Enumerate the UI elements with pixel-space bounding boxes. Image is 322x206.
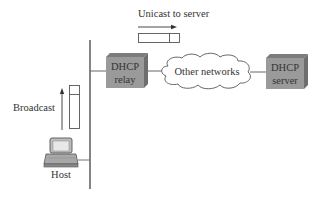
unicast-arrow-icon (138, 25, 177, 29)
broadcast-packet (70, 86, 80, 129)
unicast-label: Unicast to server (138, 8, 210, 19)
dhcp-relay-box: DHCP relay (106, 53, 148, 88)
relay-label-line2: relay (115, 74, 137, 85)
unicast-packet (139, 34, 180, 43)
dhcp-relay-diagram: DHCP relay Other networks DHCP server Un… (0, 0, 322, 206)
broadcast-arrow-icon (60, 88, 64, 130)
server-label-line1: DHCP (271, 62, 299, 73)
server-label-line2: server (272, 75, 298, 86)
cloud-label: Other networks (174, 66, 239, 77)
host-computer-icon (44, 138, 78, 167)
dhcp-server-box: DHCP server (266, 54, 308, 89)
broadcast-label: Broadcast (13, 102, 55, 113)
other-networks-cloud: Other networks (162, 53, 251, 89)
host-label: Host (51, 169, 71, 180)
relay-label-line1: DHCP (111, 61, 139, 72)
